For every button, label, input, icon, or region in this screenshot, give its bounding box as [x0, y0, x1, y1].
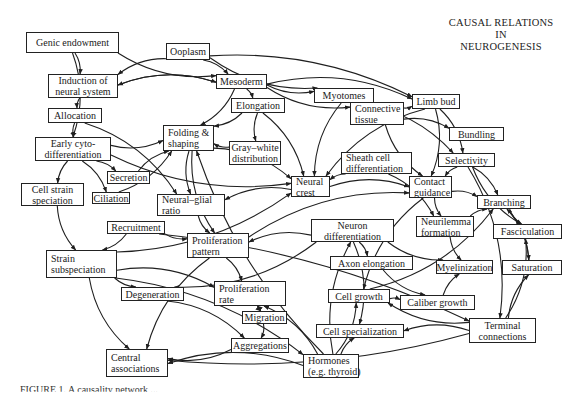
node-ciliation: Ciliation: [92, 192, 130, 204]
edge-mesoderm-to-elongation: [247, 89, 253, 98]
edge-prolpattern-to-central: [147, 258, 210, 349]
node-label: associations: [111, 363, 163, 374]
node-induction: Induction ofneural system: [48, 74, 118, 98]
edge-earlycyto-to-ciliation: [82, 161, 106, 192]
node-terminal: Terminalconnections: [469, 318, 536, 343]
node-mesoderm: Mesoderm: [216, 74, 267, 89]
node-label: Myelinization: [436, 262, 492, 273]
node-label: rate: [219, 294, 281, 305]
edge-ooplasm-to-induction: [118, 59, 166, 75]
edge-neurondiff-to-axonelong: [359, 242, 367, 256]
node-strainsub: Strainsubspeciation: [46, 250, 117, 278]
node-label: differentiation: [324, 231, 381, 242]
node-label: formation: [421, 227, 469, 238]
node-label: Allocation: [54, 110, 96, 121]
node-label: Contact: [414, 176, 447, 187]
edge-allocation-to-earlycyto: [73, 123, 75, 137]
node-ooplasm: Ooplasm: [166, 43, 210, 60]
edge-connective-to-limbbud: [404, 106, 412, 108]
node-hormones: Hormones(e.g. thyroid): [303, 354, 359, 378]
node-label: Folding &: [168, 127, 209, 138]
node-label: shaping: [168, 138, 209, 149]
edge-myotomes-to-neuralcrest: [314, 103, 341, 176]
node-label: (e.g. thyroid): [308, 366, 354, 377]
node-neuralcrest: Neuralcrest: [291, 176, 330, 197]
node-secretion: Secretion: [107, 171, 150, 184]
edge-earlycyto-to-secretion: [96, 161, 115, 171]
node-label: Limb bud: [416, 96, 455, 107]
node-label: connections: [479, 331, 527, 342]
node-label: ratio: [162, 205, 220, 216]
node-cellstrain: Cell strainspeciation: [21, 183, 84, 206]
edge-contact-to-neurilemma: [435, 198, 442, 216]
node-label: Ooplasm: [170, 46, 206, 57]
edge-caliber-to-myelin: [443, 274, 459, 295]
node-label: Neural–glial: [162, 194, 220, 205]
node-label: Recruitment: [111, 222, 160, 233]
node-label: Neurilemma: [421, 216, 469, 227]
node-label: Aggregations: [233, 340, 287, 351]
node-label: Genic endowment: [36, 37, 109, 48]
node-graywhite: Gray–whitedistribution: [229, 141, 281, 165]
node-aggregations: Aggregations: [231, 338, 289, 353]
node-connective: Connectivetissue: [350, 102, 404, 125]
edge-hormones-to-cellspec: [341, 338, 354, 354]
node-label: subspeciation: [51, 264, 112, 275]
edge-cellstrain-to-strainsub: [57, 206, 75, 250]
node-saturation: Saturation: [502, 260, 562, 275]
node-label: differentiation: [44, 149, 101, 160]
node-label: Sheath cell: [346, 152, 407, 163]
edge-recruitment-to-strainsub: [102, 234, 126, 250]
node-myotomes: Myotomes: [314, 88, 374, 103]
node-elongation: Elongation: [231, 98, 285, 113]
node-label: Myotomes: [323, 90, 366, 101]
node-label: Axon elongation: [338, 258, 405, 269]
node-label: pattern: [192, 246, 244, 257]
node-label: Selectivity: [445, 155, 488, 166]
node-label: Hormones: [308, 355, 354, 366]
node-neurilemma: Neurilemmaformation: [416, 216, 474, 237]
edge-terminal-to-fasciculation: [506, 239, 527, 318]
node-axonelong: Axon elongation: [330, 256, 413, 270]
node-label: Central: [111, 352, 163, 363]
edge-contact-to-branching: [452, 191, 477, 197]
node-caliber: Caliber growth: [400, 295, 475, 310]
node-label: tissue: [355, 114, 399, 125]
node-label: Neural: [296, 176, 325, 187]
title-line-3: NEUROGENESIS: [426, 41, 576, 53]
edge-cellgrowth-to-caliber: [390, 298, 400, 299]
node-label: Fasciculation: [501, 226, 554, 237]
edge-prolpattern-to-prolrate: [226, 258, 241, 281]
node-prolrate: Proliferationrate: [214, 281, 286, 306]
node-bundling: Bundling: [449, 127, 504, 141]
node-folding: Folding &shaping: [163, 125, 214, 151]
title-line-1: CAUSAL RELATIONS: [426, 17, 576, 29]
node-label: Cell growth: [335, 291, 383, 302]
edge-neuralglial-to-prolpattern: [198, 216, 209, 233]
node-neuralglial: Neural–glialratio: [157, 194, 225, 216]
edge-sheath-to-neuralcrest: [330, 174, 346, 180]
edge-neurilemma-to-branching: [470, 209, 487, 216]
node-label: Strain: [51, 253, 112, 264]
node-earlycyto: Early cyto-differentiation: [35, 137, 111, 161]
node-label: guidance: [414, 187, 447, 198]
node-migration: Migration: [242, 311, 287, 324]
node-allocation: Allocation: [48, 108, 102, 123]
node-label: crest: [296, 187, 325, 198]
node-branching: Branching: [477, 195, 531, 209]
node-label: Cell strain: [32, 184, 73, 195]
edge-elongation-to-folding: [214, 113, 242, 126]
edge-folding-to-prolpattern: [192, 151, 215, 233]
node-limbbud: Limb bud: [412, 94, 460, 109]
node-label: Gray–white: [231, 142, 278, 153]
node-label: Bundling: [458, 129, 495, 140]
node-label: Induction of: [58, 75, 107, 86]
node-myelin: Myelinization: [436, 260, 493, 274]
node-label: Saturation: [511, 262, 552, 273]
node-label: Caliber growth: [407, 297, 467, 308]
node-label: Branching: [483, 197, 525, 208]
edge-earlycyto-to-cellstrain: [58, 161, 68, 183]
edge-terminal-to-saturation: [508, 275, 528, 318]
edge-neuralcrest-to-contact: [330, 180, 409, 187]
edge-elongation-to-graywhite: [254, 113, 257, 141]
